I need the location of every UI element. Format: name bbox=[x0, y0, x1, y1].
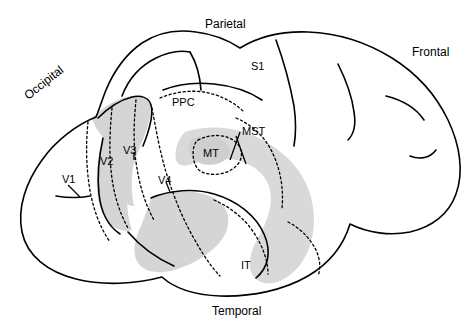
lobe-label-frontal: Frontal bbox=[412, 46, 449, 58]
principal-sulcus bbox=[386, 96, 424, 120]
arcuate-sulcus bbox=[338, 64, 355, 140]
outer-contour bbox=[21, 31, 461, 296]
central-sulcus bbox=[276, 40, 296, 146]
leader-v1 bbox=[68, 185, 80, 197]
brain-lateral-view-illustration bbox=[0, 0, 471, 330]
frontal-inferior-sulcus bbox=[410, 150, 436, 158]
area-label-v1: V1 bbox=[62, 174, 75, 185]
area-label-s1: S1 bbox=[251, 61, 264, 72]
shade-sts-region bbox=[134, 192, 228, 273]
parietal-fold bbox=[122, 51, 190, 96]
lobe-label-temporal: Temporal bbox=[212, 305, 261, 317]
lobe-label-parietal: Parietal bbox=[205, 18, 246, 30]
shaded-areas bbox=[92, 96, 314, 284]
brain-diagram-figure: ParietalFrontalOccipitalTemporalS1PPCMST… bbox=[0, 0, 471, 330]
area-label-it: IT bbox=[241, 260, 251, 271]
area-label-v4: V4 bbox=[158, 175, 171, 186]
area-label-ppc: PPC bbox=[172, 97, 195, 108]
area-label-v2: V2 bbox=[100, 156, 113, 167]
area-label-v3: V3 bbox=[123, 145, 136, 156]
brain-outline-strokes bbox=[21, 31, 461, 296]
area-label-mst: MST bbox=[242, 126, 265, 137]
area-label-mt: MT bbox=[203, 148, 219, 159]
occipital-notch bbox=[56, 196, 90, 198]
